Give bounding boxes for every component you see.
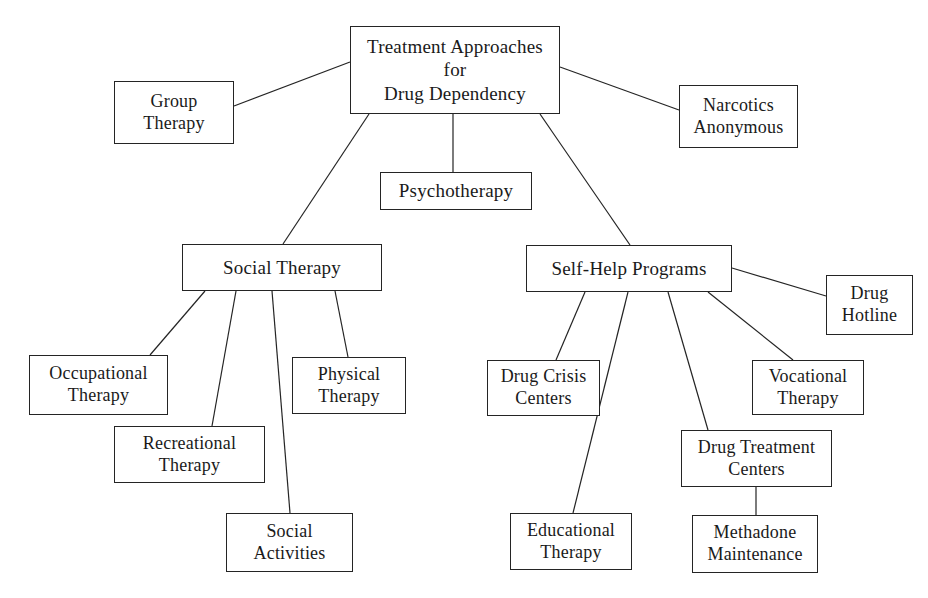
connector-self-help-to-vocational-therapy: [708, 292, 793, 360]
node-vocational-therapy[interactable]: Vocational Therapy: [752, 360, 864, 415]
node-label-drug-crisis-centers: Drug Crisis Centers: [497, 366, 591, 410]
node-label-occupational-therapy: Occupational Therapy: [45, 363, 151, 407]
connector-social-therapy-to-social-activities: [272, 291, 290, 513]
connector-self-help-to-drug-crisis-centers: [556, 292, 585, 360]
node-group-therapy[interactable]: Group Therapy: [114, 81, 234, 144]
node-label-physical-therapy: Physical Therapy: [314, 364, 385, 408]
connector-social-therapy-to-occupational-therapy: [150, 291, 205, 355]
node-physical-therapy[interactable]: Physical Therapy: [292, 357, 406, 414]
node-psychotherapy[interactable]: Psychotherapy: [380, 172, 532, 210]
node-recreational-therapy[interactable]: Recreational Therapy: [114, 426, 265, 483]
node-label-methadone-maintenance: Methadone Maintenance: [703, 522, 806, 566]
connector-root-to-self-help-programs: [540, 114, 630, 245]
node-drug-hotline[interactable]: Drug Hotline: [826, 275, 913, 335]
node-root[interactable]: Treatment Approaches for Drug Dependency: [350, 26, 560, 114]
node-label-vocational-therapy: Vocational Therapy: [765, 366, 852, 410]
node-label-educational-therapy: Educational Therapy: [523, 520, 619, 564]
connector-root-to-social-therapy: [283, 114, 369, 244]
node-social-activities[interactable]: Social Activities: [226, 513, 353, 572]
node-label-drug-treatment-centers: Drug Treatment Centers: [694, 437, 819, 481]
connector-social-therapy-to-recreational-therapy: [212, 291, 236, 426]
node-label-drug-hotline: Drug Hotline: [838, 283, 901, 327]
connector-self-help-to-drug-hotline: [732, 268, 826, 296]
node-label-social-therapy: Social Therapy: [219, 256, 345, 279]
node-occupational-therapy[interactable]: Occupational Therapy: [29, 355, 168, 415]
connector-social-therapy-to-physical-therapy: [335, 291, 348, 357]
connector-self-help-to-drug-treatment-centers: [668, 292, 708, 430]
node-drug-treatment-centers[interactable]: Drug Treatment Centers: [681, 430, 832, 487]
node-drug-crisis-centers[interactable]: Drug Crisis Centers: [487, 360, 600, 416]
node-label-self-help-programs: Self-Help Programs: [547, 257, 710, 280]
connector-root-to-group-therapy: [234, 62, 350, 106]
node-label-recreational-therapy: Recreational Therapy: [139, 433, 240, 477]
connector-root-to-narcotics-anonymous: [560, 67, 679, 110]
node-methadone-maintenance[interactable]: Methadone Maintenance: [692, 515, 818, 573]
diagram-canvas: Treatment Approaches for Drug Dependency…: [0, 0, 928, 598]
node-educational-therapy[interactable]: Educational Therapy: [510, 513, 632, 570]
node-label-social-activities: Social Activities: [250, 521, 330, 565]
node-narcotics-anonymous[interactable]: Narcotics Anonymous: [679, 85, 798, 148]
node-social-therapy[interactable]: Social Therapy: [182, 244, 382, 291]
node-self-help-programs[interactable]: Self-Help Programs: [526, 245, 732, 292]
node-label-psychotherapy: Psychotherapy: [395, 179, 517, 202]
node-label-narcotics-anonymous: Narcotics Anonymous: [690, 95, 788, 139]
node-label-root: Treatment Approaches for Drug Dependency: [363, 35, 547, 105]
node-label-group-therapy: Group Therapy: [139, 91, 208, 135]
